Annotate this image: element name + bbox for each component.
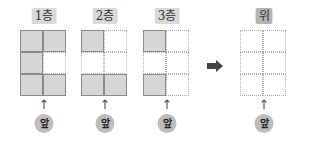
floor-3-panel: 3층 ↑ 앞 [143,0,191,143]
top-view-panel: 위 ↑ 앞 [240,0,288,143]
top-view-grid [240,30,286,96]
grid-cell [81,52,104,74]
grid-cell [104,52,127,74]
grid-cell [240,30,263,52]
front-badge: 앞 [96,114,115,133]
up-arrow-icon: ↑ [259,98,270,112]
grid-cell [240,52,263,74]
front-badge: 앞 [35,114,54,133]
up-arrow-icon: ↑ [39,98,50,112]
floor-1-grid [20,30,66,96]
floor-1-label: 1층 [32,8,57,24]
grid-cell [43,74,66,96]
grid-cell [104,74,127,96]
front-badge: 앞 [158,114,177,133]
floor-3-label: 3층 [155,8,180,24]
grid-cell [43,30,66,52]
floor-3-grid [143,30,189,96]
grid-cell [166,74,189,96]
right-arrow-icon [207,60,223,72]
grid-cell [143,74,166,96]
grid-cell [20,52,43,74]
floor-1-panel: 1층 ↑ 앞 [20,0,68,143]
front-badge: 앞 [255,114,274,133]
grid-cell [166,52,189,74]
grid-cell [263,52,286,74]
top-view-label: 위 [256,8,273,24]
grid-cell [143,52,166,74]
grid-cell [166,30,189,52]
floor-2-label: 2층 [93,8,118,24]
grid-cell [81,30,104,52]
floor-2-panel: 2층 ↑ 앞 [81,0,129,143]
grid-cell [143,30,166,52]
up-arrow-icon: ↑ [162,98,173,112]
floor-2-grid [81,30,127,96]
grid-cell [104,30,127,52]
grid-cell [263,74,286,96]
grid-cell [263,30,286,52]
grid-cell [240,74,263,96]
grid-cell [20,30,43,52]
grid-cell [20,74,43,96]
grid-cell [43,52,66,74]
grid-cell [81,74,104,96]
up-arrow-icon: ↑ [100,98,111,112]
